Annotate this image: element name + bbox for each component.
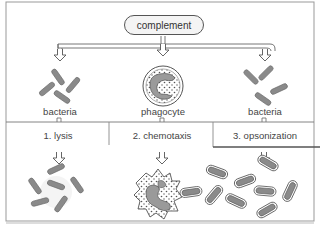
bacteria-cluster-icon: [243, 65, 288, 106]
target-label-bacteria-right: bacteria: [248, 106, 282, 117]
complement-node: complement: [124, 15, 204, 35]
bacteria-cluster-icon: [38, 68, 80, 104]
phagocyte-cell-icon: [143, 66, 183, 106]
target-label-phagocyte: phagocyte: [141, 106, 185, 117]
lysed-bacteria-icon: [28, 163, 85, 213]
process-label-lysis: 1. lysis: [43, 130, 72, 141]
process-label-chemotaxis: 2. chemotaxis: [133, 130, 192, 141]
opsonized-bacteria-icon: [203, 154, 298, 220]
process-label-opsonization: 3. opsonization: [233, 130, 297, 141]
phagocyte-engulfing-icon: [134, 169, 203, 219]
target-label-bacteria-left: bacteria: [43, 106, 77, 117]
